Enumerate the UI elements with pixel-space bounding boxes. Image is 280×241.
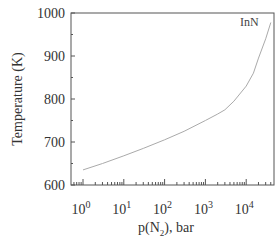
y-tick-label: 600 bbox=[44, 178, 65, 193]
plot-frame bbox=[71, 13, 274, 185]
x-axis-title: p(N2), bar bbox=[138, 220, 194, 238]
x-tick-label: 103 bbox=[194, 199, 213, 217]
x-tick-label: 100 bbox=[72, 199, 91, 217]
y-tick-label: 700 bbox=[44, 135, 65, 150]
chart: 6007008009001000 100101102103104 InN Tem… bbox=[0, 0, 280, 241]
y-axis-title: Temperature (K) bbox=[10, 52, 26, 146]
y-tick-label: 900 bbox=[44, 49, 65, 64]
series-line-inn bbox=[83, 23, 271, 170]
y-tick-label: 800 bbox=[44, 92, 65, 107]
series-label-inn: InN bbox=[240, 15, 259, 29]
x-tick-label: 101 bbox=[112, 199, 131, 217]
x-tick-label: 104 bbox=[235, 199, 254, 217]
y-tick-label: 1000 bbox=[37, 6, 65, 21]
x-tick-label: 102 bbox=[153, 199, 172, 217]
y-axis-ticks: 6007008009001000 bbox=[37, 6, 75, 193]
